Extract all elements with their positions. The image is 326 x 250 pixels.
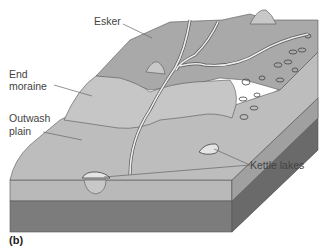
panel-label: (b) (9, 234, 23, 246)
outwash-plain-label-line2: plain (9, 125, 31, 137)
end-moraine-label-line1: End (9, 68, 28, 80)
esker-label: Esker (94, 15, 121, 27)
kettle-lakes-label: Kettle lakes (250, 159, 304, 171)
glacial-landforms-block-diagram (0, 0, 326, 250)
outwash-plain-label-line1: Outwash (9, 112, 50, 124)
end-moraine-label-line2: moraine (9, 80, 47, 92)
